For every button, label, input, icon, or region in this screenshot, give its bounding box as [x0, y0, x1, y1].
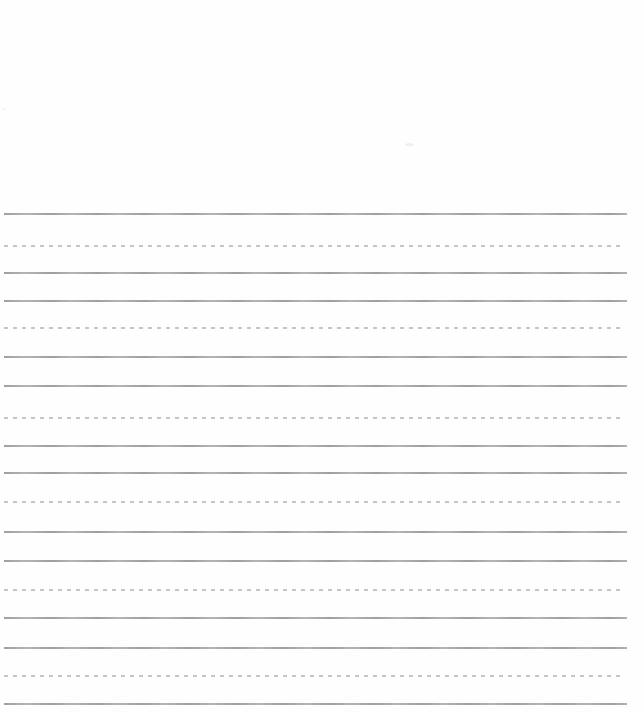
rule-line-solid: [4, 531, 627, 533]
rule-line-dashed: [4, 675, 622, 677]
rule-line-solid: [4, 647, 627, 649]
scan-artifact: [2, 108, 5, 110]
rule-line-solid: [4, 703, 627, 705]
rule-line-solid: [4, 300, 627, 302]
scan-artifact: [405, 143, 414, 146]
rule-line-dashed: [4, 245, 622, 247]
rule-line-solid: [4, 356, 627, 358]
rule-line-dashed: [4, 417, 622, 419]
rule-line-solid: [4, 213, 627, 215]
rule-line-solid: [4, 472, 627, 474]
rule-line-dashed: [4, 327, 622, 329]
rule-line-solid: [4, 560, 627, 562]
rule-line-solid: [4, 445, 627, 447]
rule-line-solid: [4, 617, 627, 619]
rule-line-solid: [4, 272, 627, 274]
rule-line-solid: [4, 385, 627, 387]
rule-line-dashed: [4, 589, 622, 591]
rule-line-dashed: [4, 501, 622, 503]
handwriting-paper-sheet: [0, 0, 644, 714]
